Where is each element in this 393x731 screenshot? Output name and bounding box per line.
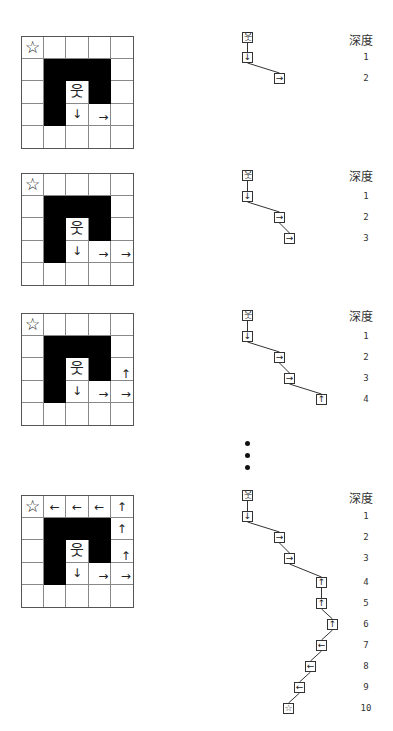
depth-number: 3 (360, 553, 372, 563)
up-arrow-icon: ↑ (329, 620, 337, 629)
tree-edge (280, 543, 290, 553)
tree-edge (290, 564, 322, 577)
left-arrow-icon: ← (296, 683, 304, 692)
tree-node: → (274, 532, 285, 543)
tree-node: ← (294, 682, 305, 693)
ellipsis-dot (245, 453, 250, 458)
depth-number: 5 (360, 598, 372, 608)
depth-number: 4 (360, 577, 372, 587)
tree-node: ← (305, 661, 316, 672)
depth-number: 1 (360, 511, 372, 521)
tree-node: 웃 (242, 490, 253, 501)
left-arrow-icon: ← (307, 662, 315, 671)
right-arrow-icon: → (286, 554, 294, 563)
depth-number: 6 (360, 619, 372, 629)
person-icon: 웃 (244, 491, 252, 500)
right-arrow-icon: → (276, 533, 284, 542)
depth-number: 8 (360, 661, 372, 671)
star-icon: ☆ (284, 704, 292, 713)
tree-edge (289, 693, 300, 703)
tree-node: → (284, 553, 295, 564)
tree-node: ← (316, 640, 327, 651)
left-arrow-icon: ← (318, 641, 326, 650)
depth-number: 7 (360, 640, 372, 650)
tree-edge (300, 672, 311, 682)
up-arrow-icon: ↑ (318, 578, 326, 587)
depth-number: 9 (360, 682, 372, 692)
tree-node: ☆ (283, 703, 294, 714)
depth-number: 10 (360, 703, 372, 713)
ellipsis-dot (245, 441, 250, 446)
tree-edge (248, 522, 280, 532)
depth-header: 深度 (349, 489, 373, 506)
depth-number: 2 (360, 532, 372, 542)
tree-node: ↑ (327, 619, 338, 630)
tree-node: ↑ (316, 577, 327, 588)
tree-edge (322, 609, 333, 619)
tree-edge (322, 630, 333, 640)
tree-node: ↓ (242, 511, 253, 522)
tree-node: ↑ (316, 598, 327, 609)
ellipsis-dot (245, 465, 250, 470)
up-arrow-icon: ↑ (318, 599, 326, 608)
down-arrow-icon: ↓ (244, 512, 252, 521)
tree-edge (311, 651, 322, 661)
